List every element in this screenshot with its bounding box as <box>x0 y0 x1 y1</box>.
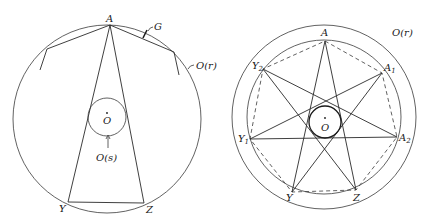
diagram-canvas: A Y Z G O(r) O(s) O A A1 A2 Z Y Y1 Y2 O(… <box>0 0 429 224</box>
label-Y2: Y2 <box>252 60 264 73</box>
leader-Or <box>188 65 194 69</box>
leader-G <box>148 27 153 31</box>
heptagram <box>250 41 397 192</box>
label-Y1: Y1 <box>238 133 249 146</box>
chord-right <box>110 25 174 52</box>
label-Or-left: O(r) <box>196 60 217 71</box>
side-YZ <box>68 202 144 203</box>
side-AZ <box>110 25 144 203</box>
label-A2: A2 <box>398 132 411 145</box>
label-Z-left: Z <box>145 204 154 215</box>
heptagon-dashed <box>250 41 397 192</box>
label-Y-right: Y <box>286 192 294 203</box>
right-figure: A A1 A2 Z Y Y1 Y2 O(r) O <box>232 25 416 209</box>
label-O-right: O <box>321 122 329 133</box>
side-AY <box>68 25 110 202</box>
label-A-left: A <box>105 13 113 24</box>
center-dot-right <box>324 117 326 119</box>
label-Or-right: O(r) <box>392 27 413 38</box>
label-Os: O(s) <box>96 152 117 163</box>
label-G: G <box>154 21 162 32</box>
label-O-left: O <box>103 115 111 126</box>
label-A1: A1 <box>383 62 396 75</box>
center-dot-left <box>106 112 108 114</box>
chord-left <box>47 25 110 49</box>
outer-circle-right <box>232 25 416 209</box>
label-A-right: A <box>320 27 328 38</box>
label-Z-right: Z <box>352 192 361 203</box>
inner-circle-right <box>247 40 401 194</box>
label-Y-left: Y <box>59 203 67 214</box>
left-figure: A Y Z G O(r) O(s) O <box>13 13 217 215</box>
